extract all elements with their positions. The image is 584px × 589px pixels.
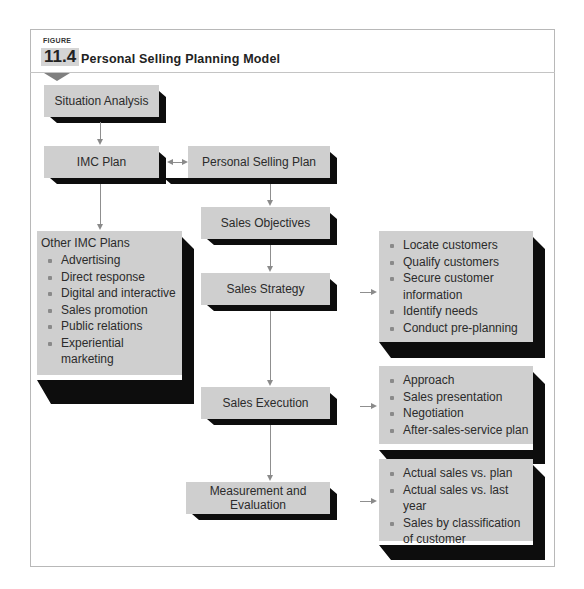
list-item: Approach bbox=[383, 372, 529, 389]
list-item: Digital and interactive bbox=[41, 285, 178, 302]
list-item: Sales promotion bbox=[41, 302, 178, 319]
node-sales-strategy: Sales Strategy bbox=[201, 273, 330, 305]
node-sales-execution: Sales Execution bbox=[201, 387, 330, 419]
connector-objectives-strategy bbox=[270, 245, 271, 267]
arrow-down-icon bbox=[97, 224, 103, 230]
evaluation-tasks-list: Actual sales vs. plan Actual sales vs. l… bbox=[383, 465, 529, 548]
list-item: Experiential marketing bbox=[41, 335, 151, 368]
execution-tasks-box: Approach Sales presentation Negotiation … bbox=[379, 366, 533, 444]
node-label: Personal Selling Plan bbox=[202, 155, 316, 169]
list-item: Sales presentation bbox=[383, 389, 529, 406]
node-situation-analysis: Situation Analysis bbox=[44, 85, 159, 117]
header-divider bbox=[30, 72, 555, 73]
list-title: Other IMC Plans bbox=[41, 235, 178, 252]
connector-strategy-execution bbox=[270, 311, 271, 381]
pointer-triangle-icon bbox=[44, 73, 70, 81]
connector-imc-other bbox=[100, 184, 101, 225]
list-item: Advertising bbox=[41, 252, 178, 269]
list-item: Direct response bbox=[41, 269, 178, 286]
list-item: Qualify customers bbox=[383, 254, 529, 271]
list-item: Identify needs bbox=[383, 303, 529, 320]
list-item: Actual sales vs. plan bbox=[383, 465, 529, 482]
strategy-tasks-box: Locate customers Qualify customers Secur… bbox=[379, 231, 533, 342]
connector-situation-imc bbox=[100, 122, 101, 139]
evaluation-tasks-box: Actual sales vs. plan Actual sales vs. l… bbox=[379, 459, 533, 541]
arrow-down-icon bbox=[267, 200, 273, 206]
node-other-imc-plans: Other IMC Plans Advertising Direct respo… bbox=[37, 231, 182, 375]
node-label: Situation Analysis bbox=[54, 94, 148, 108]
list-item: Sales by classification of customer bbox=[383, 515, 529, 548]
execution-tasks-list: Approach Sales presentation Negotiation … bbox=[383, 372, 529, 438]
list-item: Actual sales vs. last year bbox=[383, 482, 529, 515]
arrow-down-icon bbox=[97, 139, 103, 145]
arrow-down-icon bbox=[267, 475, 273, 481]
node-measurement-evaluation: Measurement and Evaluation bbox=[186, 482, 330, 514]
connector-personal-objectives bbox=[270, 184, 271, 201]
node-label: Sales Objectives bbox=[221, 216, 310, 230]
figure-title: Personal Selling Planning Model bbox=[81, 52, 280, 66]
arrow-right-icon bbox=[371, 403, 377, 409]
node-label: Sales Strategy bbox=[226, 282, 304, 296]
arrow-down-icon bbox=[267, 380, 273, 386]
connector-execution-measurement bbox=[270, 425, 271, 476]
figure-label: FIGURE bbox=[43, 37, 71, 44]
arrow-left-icon bbox=[167, 159, 173, 165]
list-item: After-sales-service plan bbox=[383, 422, 529, 439]
node-label: Measurement and Evaluation bbox=[186, 484, 330, 512]
figure-number: 11.4 bbox=[41, 48, 79, 66]
node-personal-selling-plan: Personal Selling Plan bbox=[188, 146, 330, 178]
node-sales-objectives: Sales Objectives bbox=[201, 207, 330, 239]
list-item: Conduct pre-planning bbox=[383, 320, 529, 337]
strategy-tasks-list: Locate customers Qualify customers Secur… bbox=[383, 237, 529, 336]
arrow-down-icon bbox=[267, 266, 273, 272]
node-label: IMC Plan bbox=[77, 155, 126, 169]
node-imc-plan: IMC Plan bbox=[44, 146, 159, 178]
arrow-right-icon bbox=[371, 498, 377, 504]
list-item: Negotiation bbox=[383, 405, 529, 422]
arrow-right-icon bbox=[371, 289, 377, 295]
other-imc-plans-list: Advertising Direct response Digital and … bbox=[41, 252, 178, 368]
list-item: Secure customer information bbox=[383, 270, 513, 303]
arrow-right-icon bbox=[182, 159, 188, 165]
node-label: Sales Execution bbox=[222, 396, 308, 410]
list-item: Public relations bbox=[41, 318, 178, 335]
list-item: Locate customers bbox=[383, 237, 529, 254]
